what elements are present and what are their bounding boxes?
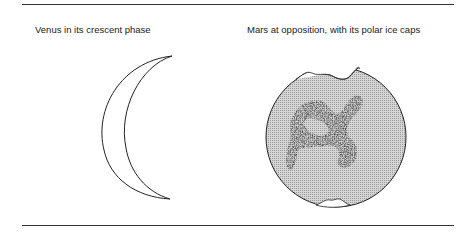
mars-disk-icon (266, 65, 406, 207)
figure-illustrations (0, 0, 462, 243)
venus-crescent-icon (102, 56, 172, 199)
